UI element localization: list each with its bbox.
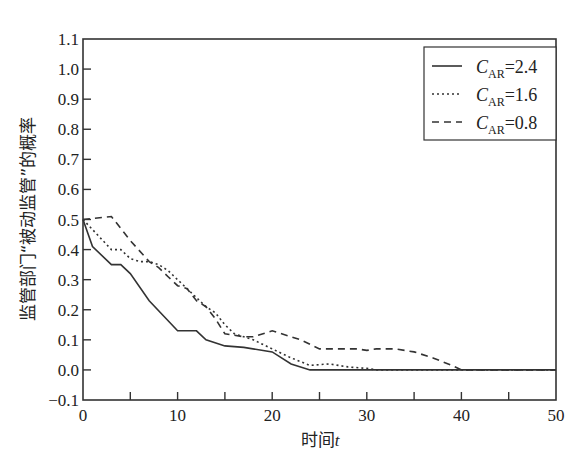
y-tick-label: 1.1 (58, 30, 79, 49)
y-tick-label: 0.0 (58, 361, 79, 380)
y-tick-label: 0.1 (58, 331, 79, 350)
x-tick-label: 0 (79, 406, 88, 425)
y-tick-label: 0.5 (58, 211, 79, 230)
x-tick-label: 30 (358, 406, 375, 425)
line-chart: −0.10.00.10.20.30.40.50.60.70.80.91.01.1… (0, 0, 585, 468)
x-tick-label: 10 (169, 406, 186, 425)
x-axis-variable: t (335, 431, 341, 450)
series-lines (83, 217, 556, 370)
y-tick-label: 0.9 (58, 90, 79, 109)
series-line-solid (83, 220, 556, 370)
x-axis: 01020304050 (79, 392, 565, 425)
y-tick-label: 0.7 (58, 150, 80, 169)
series-line-dashed (83, 217, 556, 370)
x-axis-title: 时间t (301, 430, 341, 450)
x-tick-label: 50 (548, 406, 565, 425)
x-tick-label: 20 (264, 406, 281, 425)
y-tick-label: 0.3 (58, 271, 79, 290)
legend: CAR=2.4CAR=1.6CAR=0.8 (424, 47, 556, 140)
x-tick-label: 40 (453, 406, 470, 425)
y-tick-label: −0.1 (48, 391, 79, 410)
y-tick-label: 0.2 (58, 301, 79, 320)
y-tick-label: 0.8 (58, 120, 79, 139)
y-axis-title: 监管部门“被动监管”的概率 (18, 117, 38, 322)
series-line-dotted (83, 220, 556, 370)
y-tick-label: 0.6 (58, 180, 79, 199)
y-tick-label: 0.4 (58, 241, 80, 260)
y-tick-label: 1.0 (58, 60, 79, 79)
